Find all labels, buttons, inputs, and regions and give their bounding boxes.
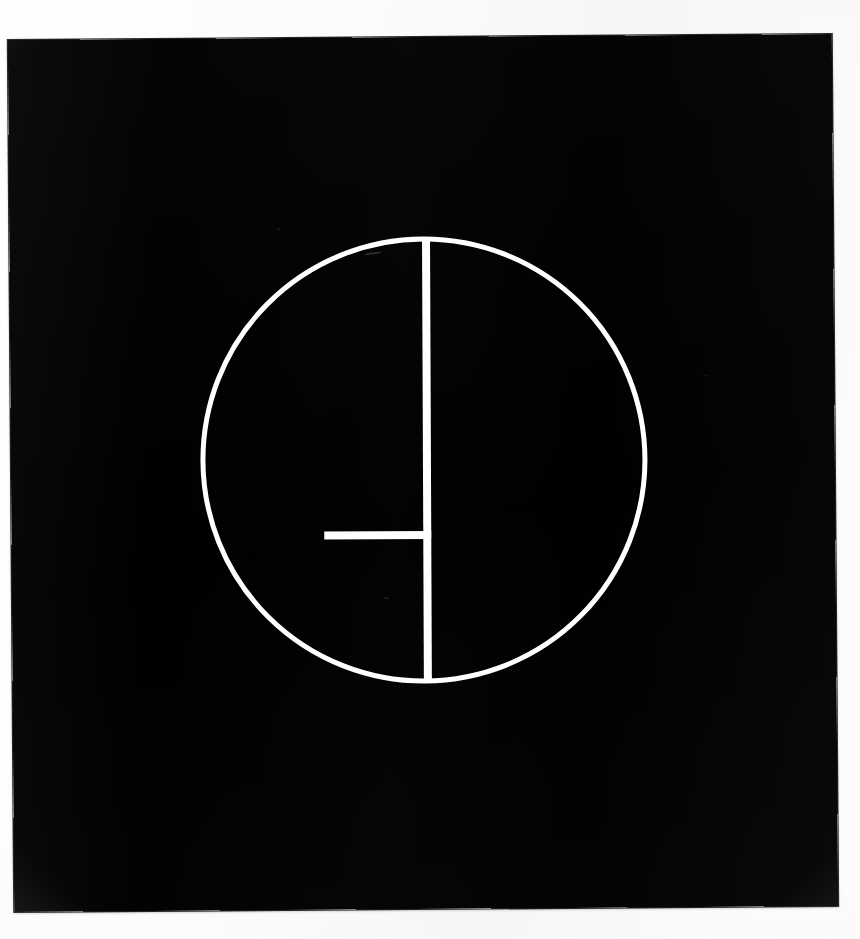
artwork-root: Circle with Vertical Diameter and Horizo… [0, 0, 860, 939]
line-drawing-layer [9, 35, 837, 910]
black-square-panel [8, 34, 838, 912]
glyph-svg [9, 35, 837, 910]
vertical-diameter-line [426, 239, 428, 683]
